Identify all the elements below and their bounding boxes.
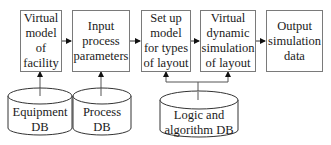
database-label-logic-algorithm: Logic and algorithm DB: [160, 108, 238, 138]
step-label: Virtual dynamic simulation of layout: [202, 11, 255, 71]
step-output-simulation-data: Output simulation data: [266, 10, 323, 72]
step-label: Set up model for types of layout: [144, 11, 189, 71]
step-label: Output simulation data: [268, 19, 321, 64]
step-virtual-dynamic-simulation: Virtual dynamic simulation of layout: [200, 10, 256, 72]
step-label: Input process parameters: [74, 19, 129, 64]
step-virtual-model-of-facility: Virtual model of facility: [20, 10, 62, 72]
step-set-up-model: Set up model for types of layout: [141, 10, 191, 72]
step-label: Virtual model of facility: [23, 11, 58, 71]
arrow-db3-s4: [198, 72, 228, 82]
database-label-process: Process DB: [73, 105, 131, 135]
arrow-db3-s3: [166, 72, 198, 82]
database-label-equipment: Equipment DB: [8, 105, 72, 135]
step-input-process-parameters: Input process parameters: [72, 10, 130, 72]
